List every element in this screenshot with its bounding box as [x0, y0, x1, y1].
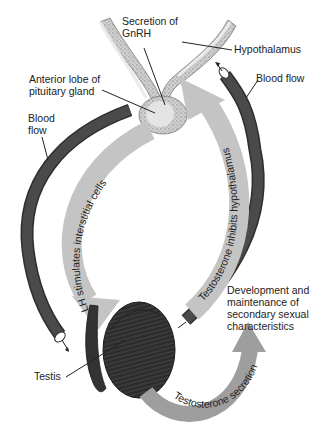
inhibits-arrow-label: Testosterone inhibits hypothalamus	[196, 147, 240, 304]
development-label: Development and maintenance of secondary…	[227, 284, 309, 332]
pituitary-label-line1: Anterior lobe of	[29, 73, 100, 85]
hypothalamus-label: Hypothalamus	[234, 43, 301, 55]
testis-label: Testis	[34, 370, 61, 382]
development-label-line4: characteristics	[227, 320, 309, 332]
gnrh-label: Secretion of GnRH	[122, 15, 178, 39]
blood-flow-left-line2: flow	[28, 124, 55, 136]
blood-flow-right-label: Blood flow	[256, 72, 304, 84]
gnrh-label-line2: GnRH	[122, 27, 178, 39]
pituitary-label: Anterior lobe of pituitary gland	[29, 73, 100, 97]
gnrh-label-line1: Secretion of	[122, 15, 178, 27]
diagram-canvas: LH stimulates interstitial cells Testost…	[0, 0, 325, 431]
development-label-line3: secondary sexual	[227, 308, 309, 320]
testosterone-regulation-diagram: LH stimulates interstitial cells Testost…	[0, 0, 325, 431]
development-label-line2: maintenance of	[227, 296, 309, 308]
secretion-arrow-label: Testosterone secretion	[172, 362, 260, 410]
development-label-line1: Development and	[227, 284, 309, 296]
pituitary-label-line2: pituitary gland	[29, 85, 100, 97]
blood-flow-left-line1: Blood	[28, 112, 55, 124]
blood-flow-left-label: Blood flow	[28, 112, 55, 136]
